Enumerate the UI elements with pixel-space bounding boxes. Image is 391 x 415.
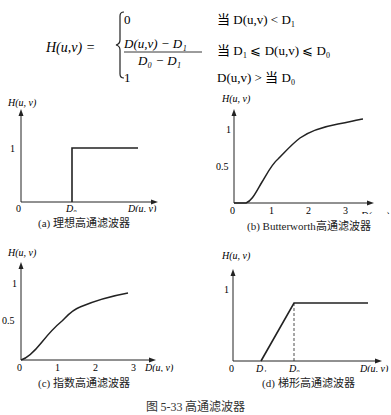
caption-a: (a) 理想高通滤波器 xyxy=(38,214,130,230)
caption-d: (d) 梯形高通滤波器 xyxy=(262,374,355,390)
y-axis-label: H(u, v) xyxy=(7,97,37,109)
chart-butterworth-highpass: H(u, v) 1 0.5 0 1 2 3 D(u, v) xyxy=(200,88,391,214)
y-axis-label: H(u, v) xyxy=(221,93,251,105)
case-2-numerator: D(u,v) − D₁ xyxy=(123,36,187,51)
y-axis-arrow-icon xyxy=(19,109,24,116)
chart-trapezoidal-highpass: H(u, v) 1 0 D₁ D₀ D(u, v) xyxy=(200,242,391,372)
origin-label: 0 xyxy=(230,205,235,214)
x-tick-d0: D₀ xyxy=(65,203,77,212)
y-tick-0.5: 0.5 xyxy=(2,315,15,326)
x-axis-arrow-icon xyxy=(367,201,374,206)
origin-label: 0 xyxy=(16,203,21,212)
x-tick-2: 2 xyxy=(93,362,98,372)
ideal-curve xyxy=(72,148,138,202)
x-tick-1: 1 xyxy=(55,362,60,372)
x-axis-label: D(u, v) xyxy=(359,363,389,372)
butterworth-curve xyxy=(234,119,363,203)
y-axis-arrow-icon xyxy=(232,109,237,116)
case-2-denominator: D₀ − D₁ xyxy=(137,53,181,68)
piecewise-equation: H(u,v) = 0 D(u,v) − D₁ D₀ − D₁ 1 当 D(u,v… xyxy=(0,0,391,88)
x-tick-3: 3 xyxy=(343,205,348,214)
x-axis-label: D(u, v) xyxy=(360,210,390,214)
brace xyxy=(116,12,124,78)
origin-label: 0 xyxy=(229,363,234,372)
figure-caption: 图 5-33 高通滤波器 xyxy=(0,397,391,415)
y-axis-label: H(u, v) xyxy=(221,250,251,262)
case-1-condition: 当 D(u,v) < D₁ xyxy=(217,12,295,27)
caption-b: (b) Butterworth高通滤波器 xyxy=(247,217,371,233)
case-3-condition: D(u,v) > 当 D₀ xyxy=(217,70,295,85)
trapezoidal-curve xyxy=(261,303,368,361)
x-tick-1: 1 xyxy=(269,205,274,214)
y-axis-arrow-icon xyxy=(19,262,24,269)
y-axis-label: H(u, v) xyxy=(7,247,37,259)
case-2-condition: 当 D₁ ⩽ D(u,v) ⩽ D₀ xyxy=(217,43,330,58)
y-tick-0.5: 0.5 xyxy=(216,161,229,172)
chart-exponential-highpass: H(u, v) 1 0.5 0 1 2 3 D(u, v) xyxy=(0,242,200,372)
x-tick-d0: D₀ xyxy=(288,363,300,372)
y-tick-1: 1 xyxy=(226,124,231,135)
chart-ideal-highpass: H(u, v) 1 0 D₀ D(u, v) xyxy=(0,92,200,212)
caption-c: (c) 指数高通滤波器 xyxy=(38,374,130,390)
x-tick-2: 2 xyxy=(306,205,311,214)
x-tick-3: 3 xyxy=(131,362,136,372)
y-tick-1: 1 xyxy=(12,278,17,289)
origin-label: 0 xyxy=(17,362,22,372)
y-tick-1: 1 xyxy=(224,284,229,295)
x-axis-label: D(u, v) xyxy=(127,203,157,212)
equation-lhs: H(u,v) = xyxy=(45,40,95,56)
y-axis-arrow-icon xyxy=(231,269,236,276)
x-tick-d1: D₁ xyxy=(255,363,267,372)
case-3-value: 1 xyxy=(124,70,131,85)
case-1-value: 0 xyxy=(124,12,131,27)
exponential-curve xyxy=(21,293,128,360)
y-tick-1: 1 xyxy=(10,143,15,154)
x-axis-label: D(u, v) xyxy=(144,362,174,372)
